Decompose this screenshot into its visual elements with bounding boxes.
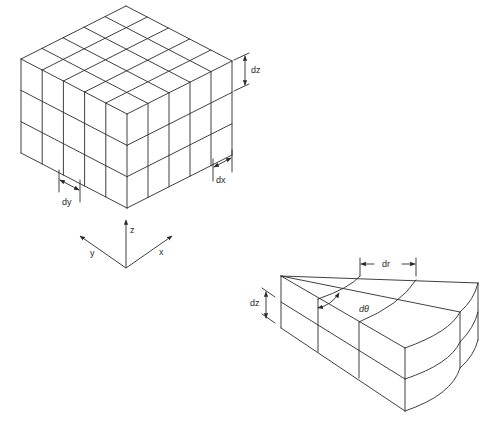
cartesian-grid-block [21, 6, 232, 208]
xyz-axes: z y x [80, 220, 172, 268]
dz-dimension-cartesian: dz [234, 53, 261, 91]
z-axis-label: z [130, 225, 135, 235]
dr-label: dr [382, 259, 390, 269]
dz-label: dz [251, 65, 261, 75]
dz-label-cylindrical: dz [250, 298, 260, 308]
y-axis-label: y [90, 248, 95, 258]
dx-label: dx [216, 175, 226, 185]
y-axis-arrow [80, 236, 126, 268]
cylindrical-grid-block [281, 276, 478, 411]
dr-dimension: dr [360, 258, 416, 276]
dy-dimension: dy [59, 170, 80, 207]
x-axis-label: x [159, 247, 164, 257]
dx-dimension: dx [213, 150, 232, 185]
dtheta-label: dθ [359, 304, 369, 314]
dz-dimension-cylindrical: dz [250, 288, 275, 323]
dy-label: dy [62, 197, 72, 207]
x-axis-arrow [126, 236, 172, 268]
